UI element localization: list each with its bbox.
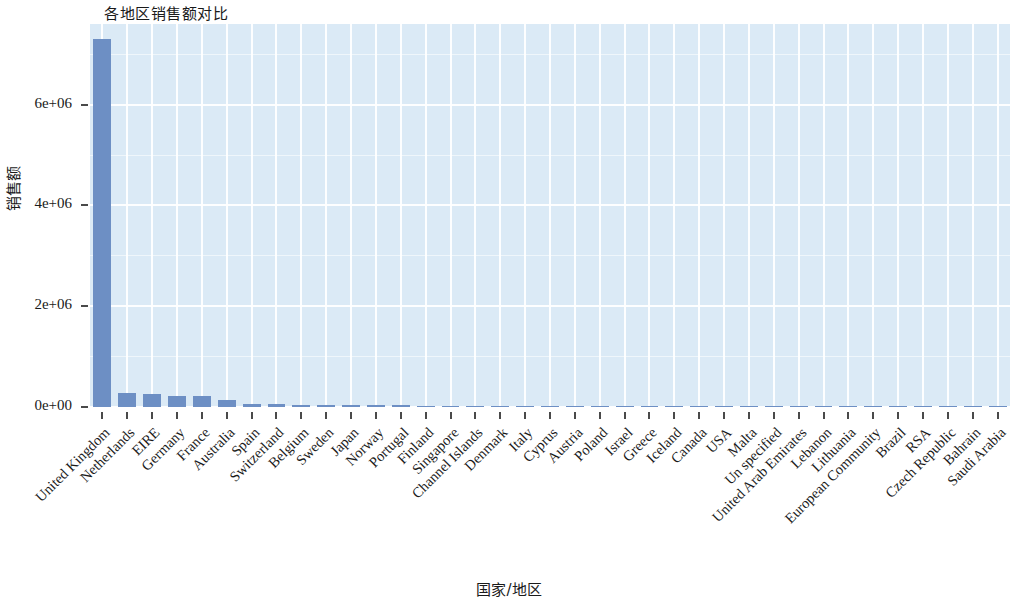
x-axis-tick-mark [101,412,103,419]
gridline-vertical [400,24,402,407]
x-axis-tick-label: Un specified [632,425,784,577]
x-axis-tick-label: United Arab Emirates [657,425,809,577]
bar [417,406,435,408]
gridline-vertical [151,24,153,407]
gridline-vertical [897,24,899,407]
bar [790,406,808,408]
y-axis-tick-label: 2e+06 [34,296,72,313]
gridline-vertical [350,24,352,407]
bar [317,405,335,407]
gridline-vertical [798,24,800,407]
bar [740,406,758,408]
x-axis-tick-label: United Kingdom [0,425,113,577]
bar [193,396,211,407]
bar [839,406,857,408]
x-axis-tick-mark [201,412,203,419]
x-axis-tick-mark [947,412,949,419]
x-axis-tick-label: Netherlands [0,425,138,577]
gridline-vertical [847,24,849,407]
x-axis-tick-label: Czech Republic [806,425,958,577]
y-axis-tick-label: 6e+06 [34,95,72,112]
x-axis-tick-label: Belgium [160,425,312,577]
x-axis-tick-label: Denmark [359,425,511,577]
bar [591,406,609,408]
bar [243,404,261,407]
bar [392,405,410,407]
gridline-vertical [325,24,327,407]
bar [143,394,161,407]
bar [516,406,534,408]
bar [715,406,733,408]
x-axis-tick-label: Finland [284,425,436,577]
bar [665,406,683,408]
x-axis-tick-label: Spain [110,425,262,577]
x-axis-tick-label: Australia [85,425,237,577]
gridline-vertical [126,24,128,407]
x-axis-tick-label: France [60,425,212,577]
gridline-vertical [648,24,650,407]
gridline-vertical [524,24,526,407]
bar [367,405,385,407]
x-axis-tick-label: Sweden [185,425,337,577]
x-axis-tick-label: RSA [782,425,934,577]
bar [641,406,659,408]
x-axis-tick-mark [773,412,775,419]
x-axis-tick-mark [151,412,153,419]
gridline-vertical [300,24,302,407]
gridline-vertical [823,24,825,407]
plot-area [90,24,1010,407]
bar [491,406,509,408]
gridline-vertical [773,24,775,407]
bar [118,393,136,407]
gridline-vertical [574,24,576,407]
x-axis-tick-label: Japan [210,425,362,577]
gridline-vertical [673,24,675,407]
x-axis-tick-label: Lithuania [707,425,859,577]
gridline-vertical [624,24,626,407]
x-axis-tick-label: Greece [508,425,660,577]
x-axis-tick-label: Malta [607,425,759,577]
bar [914,406,932,408]
x-axis-tick-mark [251,412,253,419]
x-axis-tick-label: Switzerland [135,425,287,577]
x-axis-tick-mark [897,412,899,419]
sales-by-region-bar-chart: 各地区销售额对比 0e+002e+064e+066e+06 销售额 United… [0,0,1018,609]
x-axis-tick-mark [325,412,327,419]
x-axis-tick-label: USA [583,425,735,577]
x-axis-tick-label: Bahrain [831,425,983,577]
gridline-vertical [549,24,551,407]
bar [466,406,484,408]
gridline-vertical [997,24,999,407]
gridline-vertical [723,24,725,407]
bar [616,406,634,408]
y-axis-title: 销售额 [2,129,23,249]
x-axis-tick-mark [524,412,526,419]
x-axis-tick-label: European Community [732,425,884,577]
bar [566,406,584,408]
gridline-vertical [375,24,377,407]
x-axis-tick-label: Singapore [309,425,461,577]
x-axis-tick-mark [599,412,601,419]
gridline-vertical [599,24,601,407]
gridline-vertical [748,24,750,407]
bar [442,406,460,408]
x-axis-tick-mark [922,412,924,419]
y-axis-tick-mark [81,204,88,206]
x-axis-tick-mark [972,412,974,419]
gridline-vertical [972,24,974,407]
x-axis-tick-label: Lebanon [682,425,834,577]
x-axis-tick-mark [997,412,999,419]
x-axis-tick-mark [698,412,700,419]
x-axis-tick-label: Italy [384,425,536,577]
bar [815,406,833,408]
x-axis-tick-mark [275,412,277,419]
x-axis-tick-mark [574,412,576,419]
x-axis-tick-mark [723,412,725,419]
x-axis-tick-mark [673,412,675,419]
gridline-vertical [251,24,253,407]
gridline-vertical [499,24,501,407]
gridline-vertical [176,24,178,407]
bar [690,406,708,408]
y-axis-tick-mark [81,305,88,307]
y-axis-tick-label: 0e+00 [34,397,72,414]
